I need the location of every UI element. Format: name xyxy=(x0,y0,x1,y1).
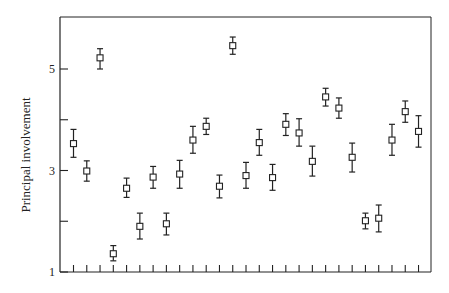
data-point xyxy=(362,213,368,229)
square-marker-icon xyxy=(177,171,183,177)
y-ticks: 135 xyxy=(49,62,68,279)
square-marker-icon xyxy=(97,55,103,61)
square-marker-icon xyxy=(296,130,302,136)
data-point xyxy=(190,126,196,153)
square-marker-icon xyxy=(150,174,156,180)
data-point xyxy=(177,160,183,188)
data-point xyxy=(163,213,169,235)
data-point xyxy=(71,129,77,157)
square-marker-icon xyxy=(71,141,77,147)
square-marker-icon xyxy=(230,43,236,49)
square-marker-icon xyxy=(84,168,90,174)
data-point xyxy=(230,37,236,54)
data-point xyxy=(256,129,262,155)
data-point xyxy=(336,98,342,118)
square-marker-icon xyxy=(349,154,355,160)
data-point xyxy=(84,161,90,181)
data-point xyxy=(97,49,103,69)
data-point xyxy=(349,143,355,172)
square-marker-icon xyxy=(110,251,116,257)
square-marker-icon xyxy=(216,183,222,189)
chart: 135 Principal involvement xyxy=(0,0,449,293)
data-point xyxy=(270,164,276,190)
square-marker-icon xyxy=(163,221,169,227)
square-marker-icon xyxy=(137,223,143,229)
square-marker-icon xyxy=(389,137,395,143)
data-point xyxy=(110,246,116,261)
data-point xyxy=(124,178,130,197)
y-tick-label: 3 xyxy=(49,164,55,178)
data-point xyxy=(203,118,209,134)
x-ticks xyxy=(74,265,419,272)
data-point xyxy=(389,124,395,155)
data-point xyxy=(416,116,422,147)
data-point xyxy=(150,166,156,188)
data-points xyxy=(71,37,422,261)
data-point xyxy=(402,101,408,122)
square-marker-icon xyxy=(283,121,289,127)
square-marker-icon xyxy=(416,128,422,134)
data-point xyxy=(216,175,222,198)
square-marker-icon xyxy=(362,218,368,224)
square-marker-icon xyxy=(243,173,249,179)
data-point xyxy=(137,213,143,239)
data-point xyxy=(309,146,315,176)
square-marker-icon xyxy=(190,137,196,143)
square-marker-icon xyxy=(124,185,130,191)
square-marker-icon xyxy=(270,175,276,181)
square-marker-icon xyxy=(203,123,209,129)
y-tick-label: 1 xyxy=(49,265,55,279)
data-point xyxy=(376,205,382,232)
square-marker-icon xyxy=(336,105,342,111)
data-point xyxy=(283,114,289,136)
plot-frame xyxy=(60,17,431,272)
square-marker-icon xyxy=(402,109,408,115)
data-point xyxy=(296,119,302,146)
square-marker-icon xyxy=(323,94,329,100)
square-marker-icon xyxy=(309,158,315,164)
y-tick-label: 5 xyxy=(49,62,55,76)
data-point xyxy=(243,162,249,188)
square-marker-icon xyxy=(256,140,262,146)
data-point xyxy=(323,88,329,106)
y-axis-label: Principal involvement xyxy=(18,97,33,213)
square-marker-icon xyxy=(376,215,382,221)
